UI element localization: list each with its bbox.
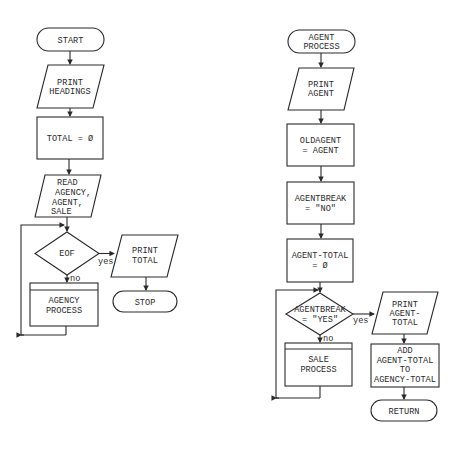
- agentbreak-init-label-1: AGENTBREAK: [295, 194, 347, 204]
- print-total-io: PRINT TOTAL: [111, 235, 178, 277]
- sale-process-subroutine: SALE PROCESS: [285, 343, 352, 386]
- yes-label: yes: [353, 316, 368, 326]
- agent-process-terminator: AGENT PROCESS: [288, 30, 355, 53]
- read-input-io: READ AGENCY, AGENT, SALE: [35, 175, 101, 217]
- agent-total-init-label-1: AGENT-TOTAL: [292, 251, 349, 261]
- oldagent-label-1: OLDAGENT: [300, 136, 341, 146]
- stop-label: STOP: [135, 298, 156, 308]
- read-label-2: AGENCY,: [55, 188, 91, 198]
- print-agent-total-label-3: TOTAL: [392, 318, 418, 328]
- agentbreak-decision: AGENTBREAK = "YES": [286, 293, 353, 335]
- agentbreak-decision-label-2: = "YES": [302, 315, 338, 325]
- oldagent-label-2: = AGENT: [302, 146, 338, 156]
- agency-process-subroutine: AGENCY PROCESS: [30, 283, 98, 326]
- total-init-process: TOTAL = Ø: [37, 117, 103, 159]
- add-agent-total-process: ADD AGENT-TOTAL TO AGENCY-TOTAL: [371, 344, 439, 387]
- total-init-label: TOTAL = Ø: [47, 134, 93, 144]
- print-headings-label-2: HEADINGS: [49, 87, 90, 97]
- yes-label: yes: [98, 257, 113, 267]
- print-headings-io: PRINT HEADINGS: [37, 65, 104, 108]
- agent-process-label-2: PROCESS: [303, 42, 339, 52]
- print-total-label-2: TOTAL: [132, 256, 158, 266]
- return-terminator: RETURN: [371, 400, 437, 421]
- return-label: RETURN: [389, 407, 420, 417]
- add-label-1: ADD: [397, 346, 412, 356]
- left-flowchart: START PRINT HEADINGS TOTAL = Ø READ AGEN…: [21, 28, 178, 335]
- agentbreak-decision-label-1: AGENTBREAK: [294, 305, 346, 315]
- eof-label: EOF: [59, 249, 74, 259]
- add-label-4: AGENCY-TOTAL: [374, 375, 436, 385]
- agent-total-init-label-2: = Ø: [312, 261, 327, 271]
- agency-process-label-2: PROCESS: [46, 306, 82, 316]
- right-flowchart: AGENT PROCESS PRINT AGENT OLDAGENT = AGE…: [276, 30, 439, 421]
- print-agent-io: PRINT AGENT: [288, 68, 354, 110]
- read-label-4: SALE: [51, 207, 72, 217]
- agent-total-init-process: AGENT-TOTAL = Ø: [287, 239, 353, 282]
- start-terminator: START: [37, 28, 104, 51]
- eof-decision: EOF: [35, 232, 99, 275]
- print-total-label-1: PRINT: [132, 246, 158, 256]
- sale-process-label-1: SALE: [308, 355, 329, 365]
- add-label-2: AGENT-TOTAL: [377, 356, 434, 366]
- stop-terminator: STOP: [113, 291, 177, 312]
- print-agent-label-2: AGENT: [308, 89, 334, 99]
- read-label-1: READ: [57, 178, 78, 188]
- sale-process-label-2: PROCESS: [300, 365, 336, 375]
- print-agent-total-io: PRINT AGENT- TOTAL: [372, 292, 438, 334]
- agentbreak-init-label-2: = "NO": [305, 204, 336, 214]
- agentbreak-init-process: AGENTBREAK = "NO": [287, 182, 354, 224]
- flowchart-canvas: START PRINT HEADINGS TOTAL = Ø READ AGEN…: [0, 0, 456, 451]
- agency-process-label-1: AGENCY: [49, 296, 80, 306]
- oldagent-process: OLDAGENT = AGENT: [287, 124, 354, 166]
- add-label-3: TO: [400, 365, 410, 375]
- start-label: START: [58, 36, 84, 46]
